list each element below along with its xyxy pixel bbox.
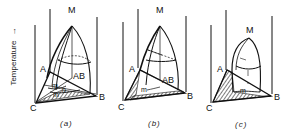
- label-b: B: [99, 93, 105, 102]
- label-b: B: [187, 92, 193, 101]
- label-m: m: [240, 87, 246, 94]
- arrow-up-icon: →: [9, 27, 18, 35]
- label-c: C: [206, 104, 213, 113]
- label-ab: AB: [73, 72, 85, 81]
- label-m: m: [52, 82, 58, 89]
- label-a: A: [40, 65, 46, 74]
- panel-a-drawing: [35, 9, 97, 103]
- label-m: m: [141, 86, 147, 93]
- panel-b-drawing: [123, 9, 186, 101]
- label-c: C: [118, 103, 125, 112]
- label-apex-m: M: [156, 6, 164, 15]
- label-a: A: [217, 65, 223, 74]
- caption-a: (a): [60, 119, 73, 128]
- caption-b: (b): [148, 119, 161, 128]
- label-n: n: [62, 86, 66, 93]
- label-a: A: [129, 65, 135, 74]
- label-ab: AB: [162, 76, 174, 85]
- label-apex-m: M: [68, 6, 76, 15]
- y-axis-label: Temperature →: [9, 22, 18, 92]
- label-apex-m: M: [246, 26, 254, 35]
- caption-c: (c): [235, 120, 247, 129]
- y-axis-label-text: Temperature: [9, 41, 18, 86]
- label-m-lower: m: [53, 91, 59, 98]
- label-b: B: [274, 93, 280, 102]
- label-c: C: [30, 104, 37, 113]
